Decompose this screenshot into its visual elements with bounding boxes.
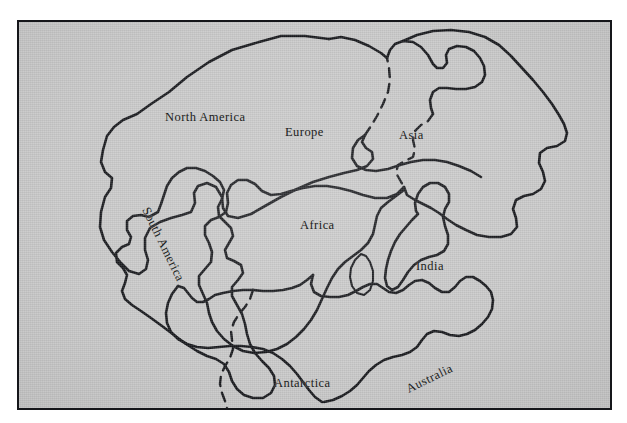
asia-north-east-outline [403,30,567,237]
europe-north-outline [387,41,485,114]
label-europe: Europe [285,125,324,140]
africa-outline [199,180,404,353]
label-asia: Asia [399,128,424,143]
label-india: India [416,259,444,274]
label-north-america: North America [165,110,245,125]
australia-outline [311,275,493,402]
antarctica-outline [178,286,253,302]
north-america-europe-suture [365,58,390,135]
asia-outline [329,37,387,58]
figure-canvas: North America Europe Asia Africa South A… [0,0,627,423]
map-frame: North America Europe Asia Africa South A… [17,20,612,410]
europe-asia-suture [396,114,433,187]
label-antarctica: Antarctica [274,376,331,391]
label-africa: Africa [300,218,335,233]
australia-west-edge [253,275,313,291]
north-america-outline [100,36,373,274]
coastline-drawing [19,22,612,410]
